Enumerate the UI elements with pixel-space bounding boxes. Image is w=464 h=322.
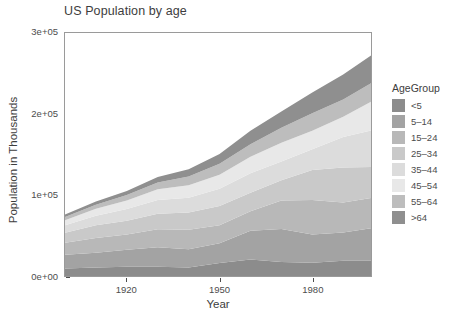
legend-item[interactable]: 15–24 (392, 130, 464, 145)
legend-item[interactable]: >64 (392, 210, 464, 225)
x-tick-mark (313, 278, 314, 282)
legend-item-label: <5 (411, 100, 422, 111)
legend-item[interactable]: 35–44 (392, 162, 464, 177)
chart-root: US Population by age Population in Thous… (0, 0, 464, 322)
legend-item-label: >64 (411, 212, 427, 223)
legend-item-label: 5–14 (411, 116, 432, 127)
legend-swatch (392, 179, 405, 192)
x-tick-mark (220, 278, 221, 282)
legend-item-label: 55–64 (411, 196, 437, 207)
legend-title: AgeGroup (392, 82, 464, 94)
legend: AgeGroup <55–1415–2425–3435–4445–5455–64… (392, 82, 464, 226)
legend-items: <55–1415–2425–3435–4445–5455–64>64 (392, 98, 464, 225)
legend-swatch (392, 115, 405, 128)
legend-item-label: 45–54 (411, 180, 437, 191)
legend-swatch (392, 195, 405, 208)
x-axis-title: Year (64, 298, 372, 310)
x-tick-label: 1980 (283, 284, 343, 295)
x-tick-mark (126, 278, 127, 282)
legend-item[interactable]: 25–34 (392, 146, 464, 161)
x-tick-label: 1950 (190, 284, 250, 295)
legend-swatch (392, 211, 405, 224)
legend-item[interactable]: 45–54 (392, 178, 464, 193)
legend-item[interactable]: 5–14 (392, 114, 464, 129)
legend-item-label: 15–24 (411, 132, 437, 143)
legend-item[interactable]: <5 (392, 98, 464, 113)
legend-item[interactable]: 55–64 (392, 194, 464, 209)
legend-swatch (392, 163, 405, 176)
legend-swatch (392, 99, 405, 112)
legend-item-label: 25–34 (411, 148, 437, 159)
legend-item-label: 35–44 (411, 164, 437, 175)
legend-swatch (392, 147, 405, 160)
legend-swatch (392, 131, 405, 144)
x-tick-label: 1920 (96, 284, 156, 295)
